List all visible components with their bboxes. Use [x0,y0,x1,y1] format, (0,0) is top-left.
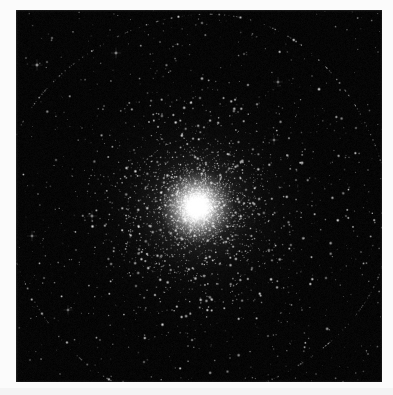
page-bottom-margin [0,388,393,395]
image-page [0,0,393,395]
star-cluster-canvas [16,10,382,382]
astronomy-photo-frame [16,10,382,382]
